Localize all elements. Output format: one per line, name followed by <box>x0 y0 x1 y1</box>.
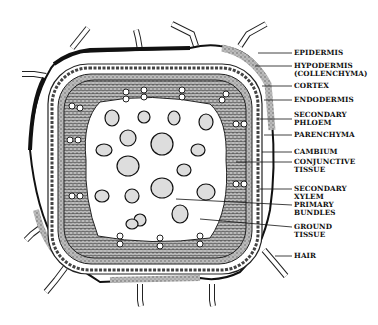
label-parenchyma: PARENCHYMA <box>294 131 355 139</box>
label-primary-bundles: PRIMARY BUNDLES <box>294 201 336 217</box>
label-epidermis: EPIDERMIS <box>294 49 343 57</box>
label-cortex: CORTEX <box>294 82 329 90</box>
label-hypodermis: HYPODERMIS (COLLENCHYMA) <box>294 62 367 78</box>
label-endodermis: ENDODERMIS <box>294 96 354 104</box>
label-secondary-xylem: SECONDARY XYLEM <box>294 185 347 201</box>
label-ground-tissue: GROUND TISSUE <box>294 223 332 239</box>
label-hair: HAIR <box>294 252 316 260</box>
label-conjunctive-tissue: CONJUNCTIVE TISSUE <box>294 158 355 174</box>
label-secondary-phloem: SECONDARY PHLOEM <box>294 111 347 127</box>
label-cambium: CAMBIUM <box>294 148 338 156</box>
